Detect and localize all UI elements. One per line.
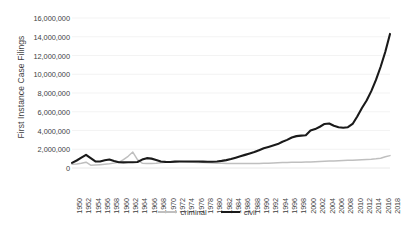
legend-item-civil[interactable]: civil [221,208,257,217]
plot-svg [72,18,390,168]
series-lines [72,34,390,165]
plot-area [72,18,390,168]
legend-label: civil [244,208,257,217]
legend-swatch-civil-icon [221,211,240,213]
legend-swatch-criminal-icon [158,211,177,213]
y-axis-tick-label: 6,000,000 [38,107,70,116]
y-axis-tick-label: 14,000,000 [34,32,71,41]
chart-legend: criminalcivil [0,205,414,219]
y-axis-tick-label: 16,000,000 [34,14,71,23]
series-line-civil [72,34,390,163]
legend-item-criminal[interactable]: criminal [158,208,207,217]
legend-label: criminal [181,208,207,217]
x-axis-tick-labels: 1950195219541956195819601962196419661968… [72,170,390,202]
line-chart: First Instance Case Filings 16,000,00014… [0,0,414,225]
y-axis-tick-label: 4,000,000 [38,126,70,135]
gridlines [72,18,390,168]
y-axis-tick-label: 8,000,000 [38,89,70,98]
y-axis-tick-label: 12,000,000 [34,51,71,60]
y-axis-tick-label: 2,000,000 [38,145,70,154]
y-axis-tick-label: 10,000,000 [34,70,71,79]
y-axis-tick-labels: 16,000,00014,000,00012,000,00010,000,000… [8,0,70,225]
y-axis-tick-label: 0 [66,164,70,173]
